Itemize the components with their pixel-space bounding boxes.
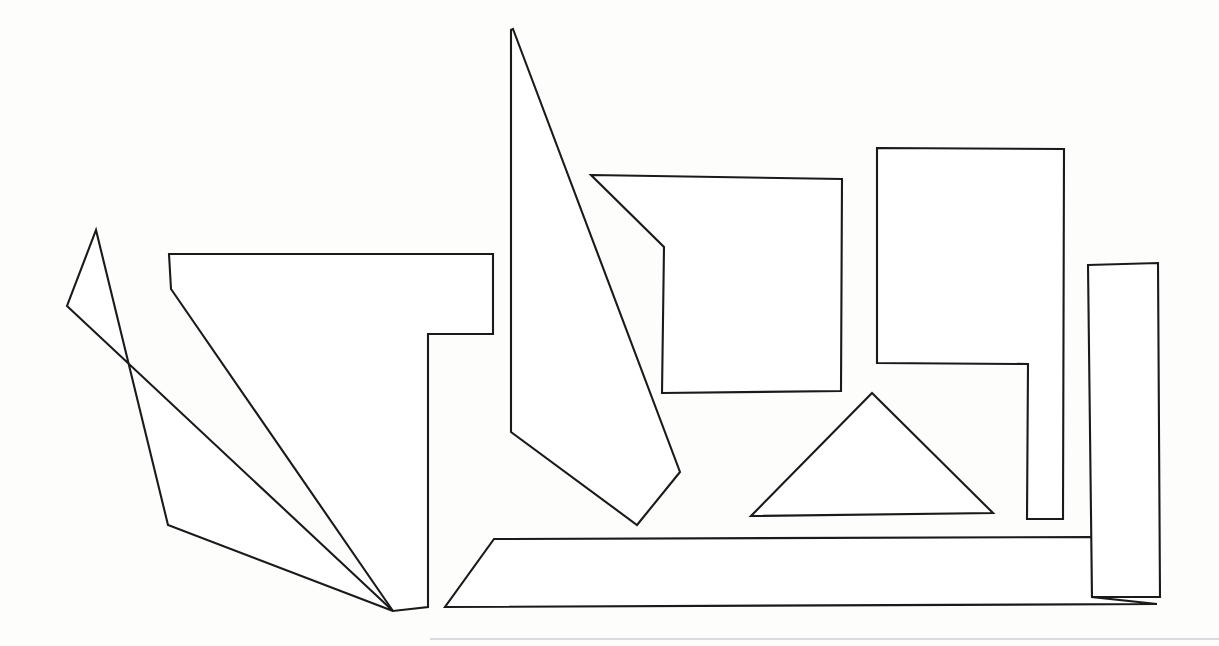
polygon-line-drawing [0,0,1219,646]
shape-right-tall-rectangle [1088,263,1160,597]
figure-canvas [0,0,1219,646]
shape-bottom-band [445,537,1157,607]
